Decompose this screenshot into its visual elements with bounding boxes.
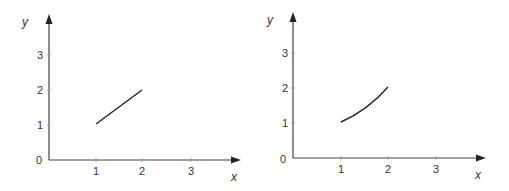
left-graph-panel: y x 0 1 2 3 1 2 3 — [0, 0, 255, 191]
y-axis-arrow-icon — [290, 12, 297, 22]
origin-label: 0 — [280, 153, 286, 165]
curved-line-segment — [341, 87, 388, 122]
x-tick-2: 2 — [385, 163, 391, 175]
y-tick-1: 1 — [282, 117, 288, 129]
right-graph-panel: y x 0 1 2 3 1 2 3 — [255, 0, 509, 191]
x-tick-1: 1 — [338, 163, 344, 175]
y-axis-arrow-icon — [46, 14, 53, 24]
y-tick-2: 2 — [37, 84, 43, 96]
x-axis-arrow-icon — [231, 157, 241, 164]
x-axis-label: x — [230, 170, 238, 184]
straight-line-segment — [96, 90, 142, 124]
left-graph: y x 0 1 2 3 1 2 3 — [0, 0, 255, 191]
x-tick-2: 2 — [139, 165, 145, 177]
y-tick-3: 3 — [37, 49, 43, 61]
right-graph: y x 0 1 2 3 1 2 3 — [255, 0, 509, 191]
x-tick-3: 3 — [433, 163, 439, 175]
origin-label: 0 — [36, 154, 42, 166]
y-tick-2: 2 — [282, 82, 288, 94]
x-tick-3: 3 — [188, 165, 194, 177]
y-tick-3: 3 — [282, 47, 288, 59]
y-axis-label: y — [266, 13, 274, 27]
y-axis-label: y — [21, 15, 29, 29]
y-tick-1: 1 — [37, 119, 43, 131]
x-tick-1: 1 — [93, 165, 99, 177]
x-axis-arrow-icon — [476, 155, 486, 162]
x-axis-label: x — [474, 168, 482, 182]
